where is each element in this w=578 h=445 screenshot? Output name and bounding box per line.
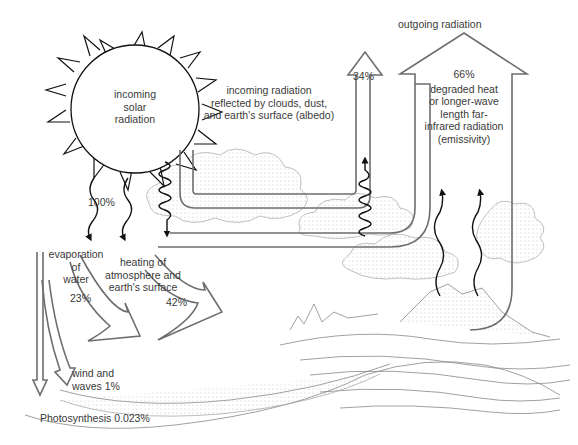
- emissivity-percent: 66%: [424, 68, 504, 81]
- evaporation-label-line: water: [46, 273, 106, 286]
- emissivity-label-line: length far-: [424, 108, 504, 121]
- heating-label-line: heating of: [103, 256, 183, 269]
- evaporation-label-line: of: [46, 261, 106, 274]
- albedo-label-line: reflected by clouds, dust,: [200, 97, 338, 110]
- emissivity-label: 66% degraded heat or longer-wave length …: [424, 68, 504, 145]
- emissivity-label-line: (emissivity): [424, 133, 504, 146]
- clouds: [147, 149, 544, 279]
- sun-label: incoming solar radiation: [100, 88, 170, 126]
- energy-flow-diagram: incoming solar radiation 100% incoming r…: [0, 0, 578, 445]
- albedo-label: incoming radiation reflected by clouds, …: [200, 84, 338, 122]
- sun-label-line: solar: [100, 101, 170, 114]
- evaporation-label-line: evaporation: [46, 248, 106, 261]
- evaporation-label: evaporation of water: [46, 248, 106, 286]
- sun-label-line: incoming: [100, 88, 170, 101]
- wind-label: wind and waves 1%: [72, 367, 120, 392]
- sun-label-line: radiation: [100, 113, 170, 126]
- emissivity-label-line: infrared radiation: [424, 120, 504, 133]
- wind-label-line: waves 1%: [72, 380, 120, 393]
- heating-label: heating of atmosphere and earth's surfac…: [103, 256, 183, 294]
- emissivity-label-line: or longer-wave: [424, 95, 504, 108]
- landscape: [25, 284, 570, 428]
- albedo-label-line: incoming radiation: [200, 84, 338, 97]
- albedo-percent: 34%: [353, 70, 374, 83]
- albedo-label-line: and earth's surface (albedo): [200, 109, 338, 122]
- incoming-percent: 100%: [88, 196, 115, 209]
- emissivity-label-line: degraded heat: [424, 83, 504, 96]
- heating-label-line: atmosphere and: [103, 269, 183, 282]
- heating-percent: 42%: [166, 296, 187, 309]
- photosynthesis-label: Photosynthesis 0.023%: [40, 412, 150, 425]
- outgoing-label: outgoing radiation: [398, 18, 481, 31]
- heating-label-line: earth's surface: [103, 281, 183, 294]
- wind-label-line: wind and: [72, 367, 120, 380]
- evaporation-percent: 23%: [70, 292, 91, 305]
